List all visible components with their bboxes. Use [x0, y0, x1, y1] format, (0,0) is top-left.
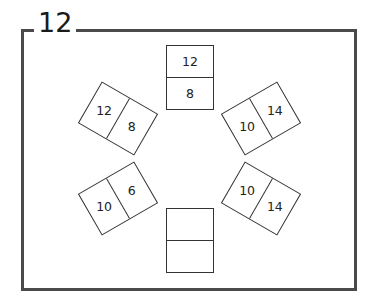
card-value: 6: [128, 182, 136, 197]
card-bottom: [166, 208, 214, 273]
card-value: 14: [267, 102, 283, 117]
frame-title: 12: [34, 8, 76, 38]
card-value: 12: [182, 54, 198, 69]
card-top-lower-half: 8: [167, 78, 213, 110]
card-value: 8: [186, 86, 194, 101]
card-value: 12: [96, 102, 112, 117]
card-top-upper-half: 12: [167, 46, 213, 78]
card-value: 10: [96, 198, 112, 213]
card-bottom-upper-half: [167, 209, 213, 241]
card-value: 8: [128, 118, 136, 133]
card-value: 14: [267, 198, 283, 213]
card-top: 12 8: [166, 45, 214, 110]
card-value: 10: [239, 182, 255, 197]
card-value: 10: [239, 118, 255, 133]
card-bottom-lower-half: [167, 241, 213, 273]
